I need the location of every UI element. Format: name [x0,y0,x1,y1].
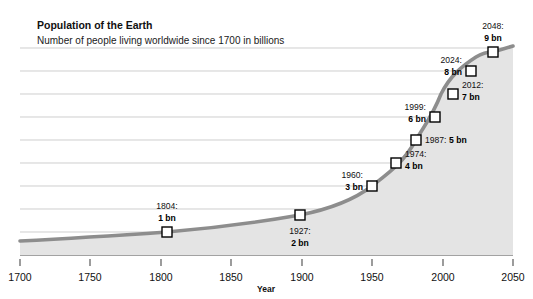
x-tick-label: 1750 [78,271,102,283]
annotation-value-1999: 6 bn [408,114,426,124]
annotation-year-1804: 1804: [156,201,178,211]
annotation-value-2012: 7 bn [462,92,480,102]
data-marker-2012[interactable] [448,89,458,99]
page-title: Population of the Earth [37,19,153,31]
annotation-year-1927: 1927: [289,226,311,236]
page-subtitle: Number of people living worldwide since … [37,35,284,46]
annotation-value-1974: 4 bn [405,161,423,171]
x-tick-label: 1900 [290,271,314,283]
annotation-year-1987: 1987: [425,135,447,145]
annotation-year-2048: 2048: [482,21,504,31]
annotation-year-1974: 1974: [405,149,427,159]
chart-page: 1700 1750 1800 1850 1900 1950 2000 2050 … [0,0,533,299]
annotation-year-2024: 2024: [440,55,462,65]
annotation-value-2048: 9 bn [484,33,502,43]
data-marker-2048[interactable] [488,47,498,57]
x-tick-label: 1850 [219,271,243,283]
data-marker-1960[interactable] [367,181,377,191]
annotation-year-1960: 1960: [341,170,363,180]
x-tick-label: 1800 [149,271,173,283]
data-marker-1804[interactable] [162,227,172,237]
annotation-year-2012: 2012: [462,80,484,90]
annotation-value-1927: 2 bn [291,238,309,248]
annotation-value-1804: 1 bn [158,213,176,223]
x-tick-label: 2050 [501,271,525,283]
annotation-value-1987: 5 bn [449,135,467,145]
data-marker-2024[interactable] [466,66,476,76]
annotation-value-2024: 8 bn [444,67,462,77]
data-marker-1999[interactable] [430,112,440,122]
x-tick-label: 1700 [8,271,32,283]
population-chart: 1700 1750 1800 1850 1900 1950 2000 2050 … [0,0,533,299]
data-marker-1974[interactable] [391,158,401,168]
x-tick-label: 2000 [431,271,455,283]
x-tick-label: 1950 [360,271,384,283]
data-marker-1987[interactable] [411,135,421,145]
annotation-year-1999: 1999: [404,102,426,112]
annotation-value-1960: 3 bn [345,182,363,192]
x-axis-title: Year [257,284,276,294]
data-marker-1927[interactable] [295,210,305,220]
